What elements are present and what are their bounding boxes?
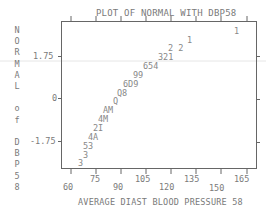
x-tick-label: 150	[209, 184, 224, 193]
data-point: 654	[143, 62, 158, 71]
chart-title: PLOT OF NORMAL WITH DBP58	[96, 8, 236, 18]
data-point: 1	[187, 36, 192, 45]
x-tick-label: 90	[113, 183, 123, 192]
x-tick-label: 105	[135, 175, 150, 184]
data-point: 1	[234, 27, 239, 36]
x-tick-label: 165	[234, 175, 249, 184]
data-point: 3	[83, 151, 88, 160]
y-axis-label: N O R M A L o f D B P 5 8	[12, 25, 22, 193]
normal-probability-plot: PLOT OF NORMAL WITH DBP58 N O R M A L o …	[0, 0, 266, 215]
data-point: 321	[158, 53, 173, 62]
x-tick-label: 135	[184, 175, 199, 184]
x-tick-label: 60	[63, 183, 73, 192]
y-tick-label: 1.75	[33, 52, 53, 61]
y-tick-label: -1.75	[30, 137, 56, 146]
x-axis-label: AVERAGE DIAST BLOOD PRESSURE 58	[78, 197, 243, 207]
data-point: Q8	[117, 89, 127, 98]
y-tick-label: 0	[52, 94, 57, 103]
plot-frame-svg	[0, 0, 266, 215]
data-point: 3	[78, 159, 83, 168]
x-tick-label: 120	[159, 183, 174, 192]
x-tick-label: 75	[90, 175, 100, 184]
data-point: Q	[113, 97, 118, 106]
